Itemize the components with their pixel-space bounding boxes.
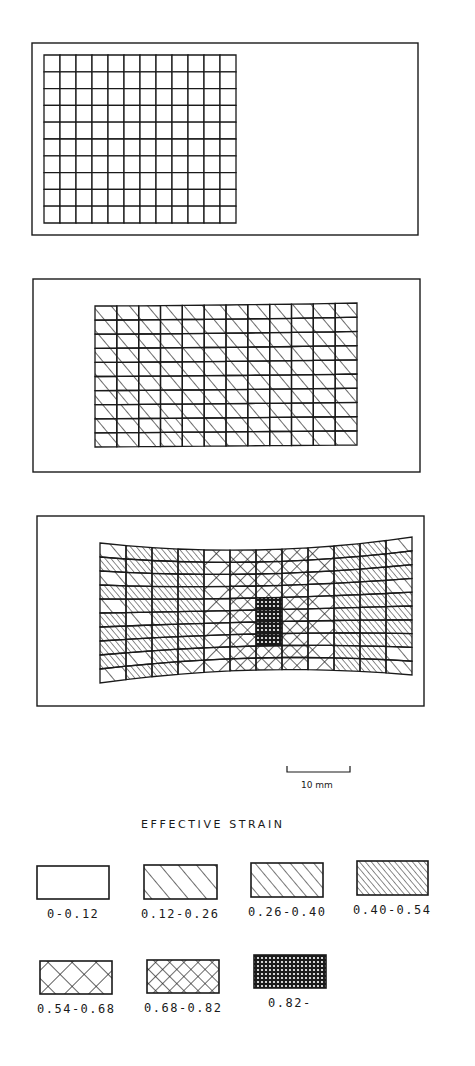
mesh-cell [44,89,60,106]
mesh-cell [188,189,204,206]
mesh-cell [161,376,183,390]
mesh-cell [117,334,139,348]
mesh-cell [156,206,172,223]
mesh-cell [139,334,161,348]
mesh-cell [172,189,188,206]
mesh-cell [156,89,172,106]
mesh-cell [126,586,152,599]
mesh-cell [76,89,92,106]
mesh-cell [282,609,308,622]
mesh-cell [220,139,236,156]
legend-swatches [37,861,428,994]
mesh-cell [204,55,220,72]
mesh-cell [270,403,292,417]
mesh-cell [156,122,172,139]
mesh-cell [178,660,204,674]
mesh-cell [95,306,117,320]
mesh-cell [292,431,314,445]
mesh-cell [108,206,124,223]
mesh-cell [308,645,334,658]
mesh-cell [126,599,152,612]
mesh-cell [100,543,126,559]
mesh [44,55,236,223]
mesh-cell [270,431,292,445]
legend-swatch-p6 [254,955,326,988]
mesh-cell [220,156,236,173]
mesh-cell [292,304,314,319]
mesh-cell [204,361,226,375]
panel-stage-1 [33,279,420,472]
mesh-cell [386,592,412,607]
mesh-cell [226,389,248,403]
mesh-cell [230,574,256,586]
mesh-cell [220,173,236,190]
mesh-cell [270,389,292,403]
mesh-cell [270,417,292,431]
mesh-cell [386,660,412,675]
legend-swatch-p0 [37,866,109,899]
mesh-cell [204,404,226,418]
mesh-cell [256,634,282,647]
mesh-cell [117,390,139,404]
mesh-cell [60,105,76,122]
mesh-cell [95,405,117,419]
mesh-cell [44,173,60,190]
mesh-cell [334,658,360,672]
mesh-cell [117,433,139,447]
mesh-cell [334,633,360,646]
mesh-cell [204,319,226,333]
mesh-cell [117,306,139,320]
mesh-cell [140,122,156,139]
mesh-cell [335,431,357,445]
mesh-cell [117,419,139,433]
mesh-cell [282,597,308,610]
mesh-cell [292,417,314,431]
mesh-cell [248,389,270,403]
mesh-cell [92,189,108,206]
mesh-cell [230,658,256,671]
mesh-cell [172,72,188,89]
mesh-cell [156,105,172,122]
mesh-cell [60,89,76,106]
legend-label: 0.82- [268,996,312,1010]
mesh-cell [256,646,282,659]
mesh-cell [220,122,236,139]
mesh-cell [92,156,108,173]
mesh-cell [182,333,204,347]
mesh-cell [76,105,92,122]
mesh-cell [292,403,314,417]
mesh-cell [204,333,226,347]
mesh-cell [335,374,357,389]
mesh-cell [256,573,282,586]
mesh-cell [360,646,386,660]
mesh-cell [92,173,108,190]
mesh-cell [360,607,386,621]
mesh-cell [334,556,360,571]
mesh-cell [60,55,76,72]
mesh-cell [95,334,117,348]
mesh-cell [156,55,172,72]
mesh-cell [220,55,236,72]
mesh-cell [204,72,220,89]
mesh-cell [282,572,308,585]
mesh-cell [156,156,172,173]
mesh-cell [152,662,178,677]
mesh-cell [292,375,314,389]
mesh-cell [156,173,172,190]
mesh-cell [292,389,314,403]
mesh-cell [140,55,156,72]
mesh-cell [152,548,178,562]
mesh-cell [248,361,270,375]
mesh-cell [140,156,156,173]
mesh-cell [256,585,282,598]
mesh-cell [256,609,282,622]
mesh-cell [386,633,412,647]
mesh-cell [92,122,108,139]
mesh-cell [95,348,117,362]
mesh [95,303,357,447]
mesh-cell [60,206,76,223]
mesh-cell [124,122,140,139]
mesh-cell [226,333,248,347]
mesh-cell [248,417,270,431]
mesh-cell [44,206,60,223]
